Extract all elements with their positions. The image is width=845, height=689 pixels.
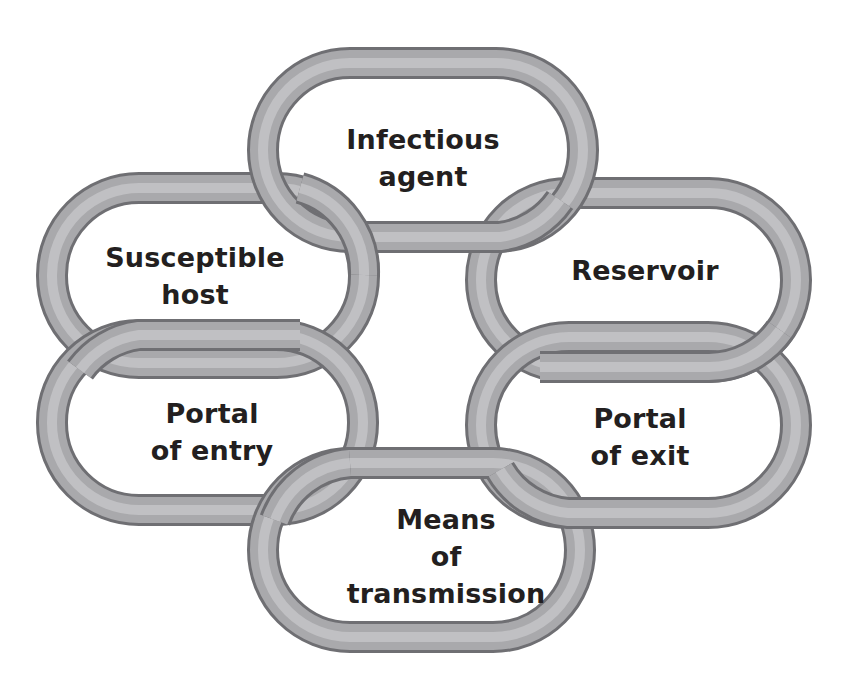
label-line: Susceptible — [105, 239, 285, 276]
label-line: transmission — [347, 575, 546, 612]
label-line: of — [347, 538, 546, 575]
label-line: Portal — [151, 395, 274, 432]
label-susceptible-host: Susceptible host — [105, 239, 285, 313]
label-line: Infectious — [346, 121, 499, 158]
label-line: Means — [347, 501, 546, 538]
label-line: of entry — [151, 432, 274, 469]
label-portal-of-entry: Portal of entry — [151, 395, 274, 469]
label-infectious-agent: Infectious agent — [346, 121, 499, 195]
label-reservoir: Reservoir — [571, 252, 718, 289]
label-portal-of-exit: Portal of exit — [591, 400, 690, 474]
label-line: of exit — [591, 437, 690, 474]
label-means-of-transmission: Means of transmission — [347, 501, 546, 612]
label-line: Portal — [591, 400, 690, 437]
label-line: agent — [346, 158, 499, 195]
label-line: Reservoir — [571, 252, 718, 289]
label-line: host — [105, 276, 285, 313]
